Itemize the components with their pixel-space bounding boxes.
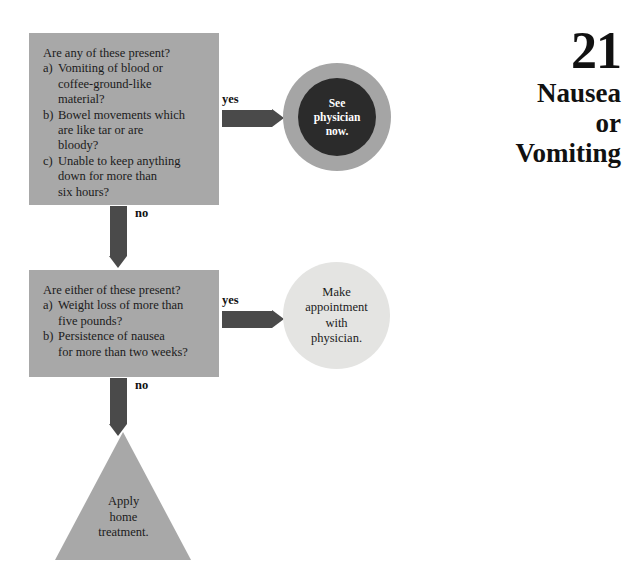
chapter-title-line-2: or	[423, 108, 621, 138]
outcome-line: with	[305, 316, 368, 332]
item-body: Bowel movements which are like tar or ar…	[58, 108, 219, 154]
decision-box-1-item-c: c) Unable to keep anything down for more…	[43, 154, 219, 200]
decision-box-2-item-b: b) Persistence of nausea for more than t…	[43, 329, 219, 360]
item-marker: a)	[43, 61, 58, 107]
chapter-title-line-3: Vomiting	[423, 138, 621, 168]
arrow-no-1	[110, 206, 127, 268]
outcome-line: Apply	[55, 494, 192, 510]
arrow-no-2	[110, 378, 127, 436]
item-line: are like tar or are	[58, 123, 219, 138]
outcome-line: physician.	[305, 331, 368, 347]
decision-box-1-text: Are any of these present? a) Vomiting of…	[29, 33, 219, 200]
item-line: Bowel movements which	[58, 108, 219, 123]
item-line: Weight loss of more than	[58, 298, 219, 313]
outcome-core: See physician now.	[298, 78, 376, 156]
edge-label-no-2: no	[135, 378, 148, 393]
decision-box-1: Are any of these present? a) Vomiting of…	[29, 33, 219, 205]
item-line: Unable to keep anything	[58, 154, 219, 169]
item-marker: c)	[43, 154, 58, 200]
outcome-see-physician-now: See physician now.	[283, 63, 391, 171]
edge-label-yes-2: yes	[222, 293, 239, 308]
decision-box-1-heading: Are any of these present?	[43, 46, 219, 61]
item-line: bloody?	[58, 138, 219, 153]
chapter-title-line-1: Nausea	[423, 78, 621, 108]
outcome-line: See	[314, 96, 361, 110]
item-line: for more than two weeks?	[58, 345, 219, 360]
decision-box-2-text: Are either of these present? a) Weight l…	[29, 270, 219, 360]
item-marker: a)	[43, 298, 58, 329]
outcome-line: treatment.	[55, 525, 192, 541]
edge-label-no-1: no	[135, 206, 148, 221]
outcome-apply-home-treatment-text: Apply home treatment.	[55, 494, 192, 541]
outcome-line: physician	[314, 110, 361, 124]
item-line: material?	[58, 92, 219, 107]
item-line: six hours?	[58, 185, 219, 200]
outcome-line: now.	[314, 124, 361, 138]
decision-box-2: Are either of these present? a) Weight l…	[29, 270, 219, 377]
decision-box-1-item-b: b) Bowel movements which are like tar or…	[43, 108, 219, 154]
arrow-shaft	[110, 206, 127, 256]
outcome-see-physician-now-text: See physician now.	[314, 96, 361, 138]
arrow-head	[109, 256, 127, 268]
item-line: Persistence of nausea	[58, 329, 219, 344]
item-body: Unable to keep anything down for more th…	[58, 154, 219, 200]
arrow-shaft	[110, 378, 127, 424]
decision-box-2-item-a: a) Weight loss of more than five pounds?	[43, 298, 219, 329]
item-marker: b)	[43, 108, 58, 154]
item-line: coffee-ground-like	[58, 77, 219, 92]
chapter-title-block: 21 Nausea or Vomiting	[423, 26, 623, 168]
outcome-line: Make	[305, 285, 368, 301]
outcome-make-appointment-text: Make appointment with physician.	[305, 285, 368, 347]
flowchart-page: 21 Nausea or Vomiting Are any of these p…	[0, 0, 641, 583]
item-line: Vomiting of blood or	[58, 61, 219, 76]
item-body: Persistence of nausea for more than two …	[58, 329, 219, 360]
arrow-yes-2	[222, 311, 284, 328]
outcome-make-appointment: Make appointment with physician.	[283, 262, 390, 369]
outcome-line: appointment	[305, 300, 368, 316]
arrow-yes-1	[222, 110, 284, 127]
decision-box-1-item-a: a) Vomiting of blood or coffee-ground-li…	[43, 61, 219, 107]
outcome-apply-home-treatment: Apply home treatment.	[55, 432, 192, 560]
item-body: Weight loss of more than five pounds?	[58, 298, 219, 329]
arrow-shaft	[222, 311, 272, 328]
item-line: five pounds?	[58, 314, 219, 329]
chapter-number: 21	[423, 26, 621, 76]
outcome-line: home	[55, 510, 192, 526]
item-line: down for more than	[58, 169, 219, 184]
decision-box-2-heading: Are either of these present?	[43, 283, 219, 298]
edge-label-yes-1: yes	[222, 92, 239, 107]
arrow-shaft	[222, 110, 272, 127]
item-body: Vomiting of blood or coffee-ground-like …	[58, 61, 219, 107]
item-marker: b)	[43, 329, 58, 360]
